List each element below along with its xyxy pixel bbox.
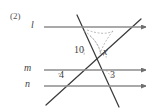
angle-label-10: 10	[74, 45, 84, 55]
transversal-lines	[46, 15, 141, 107]
arc-dashed-vertex-left-outer	[87, 30, 113, 33]
geometry-figure: (2) l m n 10 x 4 3	[0, 0, 146, 108]
transversal-left	[77, 15, 119, 107]
problem-number: (2)	[10, 12, 21, 21]
line-label-m: m	[24, 63, 31, 73]
arc-dashed-inner	[90, 36, 100, 52]
transversal-right	[46, 19, 141, 105]
angle-label-x: x	[103, 47, 107, 57]
line-label-l: l	[31, 20, 34, 30]
figure-canvas	[0, 0, 146, 108]
angle-label-3: 3	[110, 70, 115, 80]
angle-label-4: 4	[59, 70, 64, 80]
line-label-n: n	[25, 79, 30, 89]
